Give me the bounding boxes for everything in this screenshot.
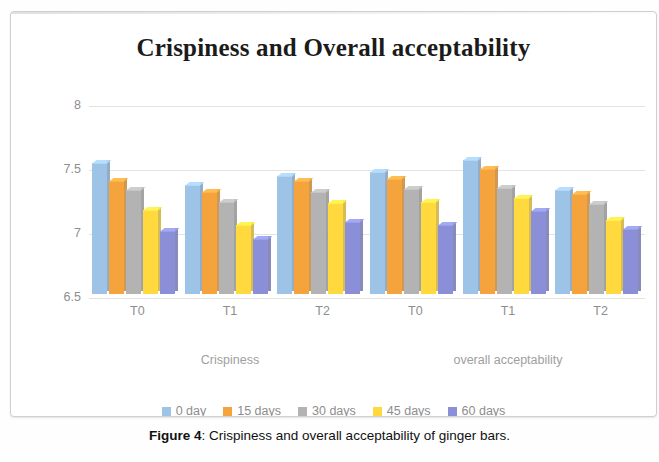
bar-face [404, 189, 419, 294]
bar [277, 176, 292, 294]
bar-face [219, 202, 234, 294]
bar-group [185, 108, 268, 294]
bar [555, 190, 570, 294]
legend-label: 0 day [176, 404, 207, 417]
bar [92, 163, 107, 294]
bar [589, 204, 604, 294]
bar [531, 211, 546, 294]
bar-side-facet [638, 226, 641, 291]
bar-face [185, 185, 200, 294]
bar-face [92, 163, 107, 294]
bar-groups [91, 108, 647, 294]
group-category-label: overall acceptability [369, 353, 647, 367]
legend-label: 30 days [312, 404, 356, 417]
x-tick-label: T1 [195, 304, 265, 318]
bar [463, 160, 478, 294]
figure-card: Crispiness and Overall acceptability 6.5… [10, 11, 657, 417]
legend-swatch-icon [298, 407, 307, 416]
bar [514, 198, 529, 294]
bar [387, 179, 402, 294]
bar-side-facet [268, 236, 271, 291]
legend-item[interactable]: 60 days [448, 404, 506, 417]
bar-face [531, 211, 546, 294]
bar-face [277, 176, 292, 294]
chart-title: Crispiness and Overall acceptability [11, 34, 656, 62]
bar-face [421, 202, 436, 294]
bar [370, 172, 385, 294]
bar-face [294, 181, 309, 294]
x-tick-label: T2 [566, 304, 636, 318]
bar-face [109, 181, 124, 294]
x-tick-label: T1 [473, 304, 543, 318]
bar-group [92, 108, 175, 294]
x-tick-label: T0 [102, 304, 172, 318]
legend-label: 45 days [387, 404, 431, 417]
bar-face [345, 222, 360, 294]
bar [109, 181, 124, 294]
bar-side-facet [546, 208, 549, 291]
bar [438, 225, 453, 294]
bar-face [555, 190, 570, 294]
bar-face [589, 204, 604, 294]
bar-face [514, 198, 529, 294]
group-category-label: Crispiness [91, 353, 369, 367]
figure-caption: Figure 4: Crispiness and overall accepta… [0, 428, 659, 443]
legend-swatch-icon [448, 407, 457, 416]
bar-group [370, 108, 453, 294]
scanned-page: Crispiness and Overall acceptability 6.5… [0, 0, 659, 462]
bar [480, 169, 495, 294]
bar-face [606, 220, 621, 294]
legend-label: 60 days [462, 404, 506, 417]
legend-item[interactable]: 0 day [162, 404, 207, 417]
bar-face [387, 179, 402, 294]
chart-legend: 0 day15 days30 days45 days60 days [11, 404, 656, 417]
bar [572, 194, 587, 294]
bar [160, 231, 175, 294]
y-tick-label: 6.5 [41, 290, 81, 304]
bar-face [143, 210, 158, 294]
bar [421, 202, 436, 294]
bar-side-facet [175, 228, 178, 291]
category-labels: Crispinessoverall acceptability [91, 353, 647, 371]
bar [219, 202, 234, 294]
bar [126, 190, 141, 294]
bar-face [328, 203, 343, 294]
bar [497, 188, 512, 294]
x-tick-label: T0 [380, 304, 450, 318]
bar [328, 203, 343, 294]
bar-group [277, 108, 360, 294]
bar-group [463, 108, 546, 294]
bar [345, 222, 360, 294]
bar-face [253, 239, 268, 294]
legend-item[interactable]: 30 days [298, 404, 356, 417]
y-tick-label: 7.5 [41, 162, 81, 176]
legend-item[interactable]: 15 days [223, 404, 281, 417]
y-tick-label: 7 [41, 226, 81, 240]
bar [404, 189, 419, 294]
bar-face [126, 190, 141, 294]
bar [294, 181, 309, 294]
bar [623, 229, 638, 294]
x-tick-label: T2 [288, 304, 358, 318]
y-axis: 6.577.58 [39, 106, 81, 306]
legend-item[interactable]: 45 days [373, 404, 431, 417]
bar-face [311, 192, 326, 294]
bar [202, 192, 217, 294]
bar [606, 220, 621, 294]
legend-swatch-icon [223, 407, 232, 416]
gridline [89, 298, 645, 299]
figure-number: Figure 4 [149, 428, 202, 443]
bar-face [480, 169, 495, 294]
bar-face [236, 225, 251, 294]
bar-face [438, 225, 453, 294]
bar [143, 210, 158, 294]
bar-face [370, 172, 385, 294]
x-axis-ticks: T0T1T2T0T1T2 [91, 304, 647, 322]
bar-side-facet [360, 219, 363, 291]
caption-separator: : [202, 428, 210, 443]
bar-group [555, 108, 638, 294]
bar [236, 225, 251, 294]
legend-swatch-icon [162, 407, 171, 416]
bar-face [497, 188, 512, 294]
bar [253, 239, 268, 294]
